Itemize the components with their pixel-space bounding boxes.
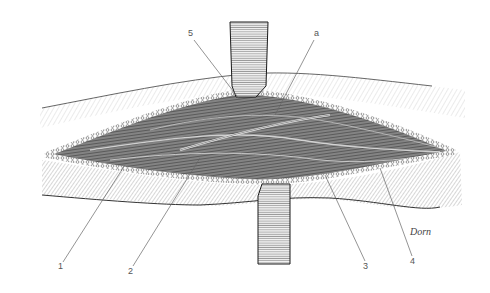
label-3: 3	[363, 262, 368, 271]
artist-signature: Dorn	[410, 226, 431, 237]
label-a: a	[314, 29, 319, 38]
retractor-top	[230, 22, 268, 97]
label-1: 1	[58, 262, 63, 271]
retractor-bottom	[258, 184, 290, 264]
label-2: 2	[128, 267, 133, 276]
surgical-illustration	[0, 0, 490, 293]
label-4: 4	[410, 257, 415, 266]
label-5: 5	[188, 29, 193, 38]
